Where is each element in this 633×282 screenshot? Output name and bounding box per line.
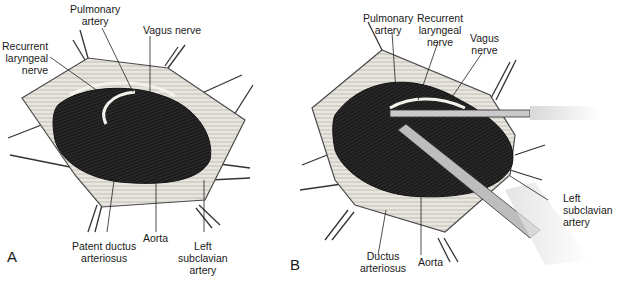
label-vagus-nerve: Vagus nerve (143, 24, 201, 36)
label-line: subclavian (563, 204, 613, 216)
label-line: Vagus nerve (143, 24, 201, 36)
label-line: Left (563, 192, 613, 204)
panel-letter-a: A (7, 248, 17, 265)
label-line: laryngeal (417, 24, 463, 36)
label-line: Ductus (360, 250, 406, 262)
label-line: artery (563, 216, 613, 228)
label-recurrent-laryngeal-nerve: Recurrent laryngeal nerve (2, 40, 48, 76)
label-recurrent-laryngeal-nerve: Recurrent laryngeal nerve (417, 12, 463, 48)
label-line: arteriosus (360, 262, 406, 274)
label-line: nerve (2, 64, 48, 76)
label-pulmonary-artery: Pulmonary artery (363, 12, 413, 36)
label-pulmonary-artery: Pulmonary artery (70, 3, 120, 27)
label-patent-ductus-arteriosus: Patent ductus arteriosus (72, 240, 136, 264)
label-line: Pulmonary (70, 3, 120, 15)
label-line: artery (178, 264, 228, 276)
label-line: Patent ductus (72, 240, 136, 252)
label-left-subclavian-artery: Left subclavian artery (563, 192, 613, 228)
label-line: Recurrent (417, 12, 463, 24)
label-line: laryngeal (2, 52, 48, 64)
label-ductus-arteriosus: Ductus arteriosus (360, 250, 406, 274)
label-line: arteriosus (72, 252, 136, 264)
label-line: artery (70, 15, 120, 27)
label-line: subclavian (178, 252, 228, 264)
label-line: Recurrent (2, 40, 48, 52)
label-line: Aorta (418, 256, 443, 268)
label-line: nerve (417, 36, 463, 48)
label-line: Vagus (470, 32, 499, 44)
label-left-subclavian-artery: Left subclavian artery (178, 240, 228, 276)
label-line: Aorta (143, 232, 168, 244)
label-line: artery (363, 24, 413, 36)
retractor-fade (530, 106, 600, 120)
retractor-instrument (390, 110, 530, 117)
label-line: Left (178, 240, 228, 252)
label-aorta: Aorta (418, 256, 443, 268)
panel-a: Pulmonary artery Vagus nerve Recurrent l… (0, 0, 300, 282)
label-line: nerve (470, 44, 499, 56)
label-line: Pulmonary (363, 12, 413, 24)
panel-letter-b: B (290, 256, 300, 273)
panel-b: Pulmonary artery Recurrent laryngeal ner… (290, 0, 633, 282)
label-aorta: Aorta (143, 232, 168, 244)
label-vagus-nerve: Vagus nerve (470, 32, 499, 56)
